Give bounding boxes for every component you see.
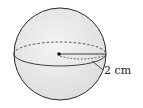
sphere-diagram — [0, 0, 143, 108]
center-point — [57, 52, 61, 56]
radius-label: 2 cm — [104, 64, 131, 77]
